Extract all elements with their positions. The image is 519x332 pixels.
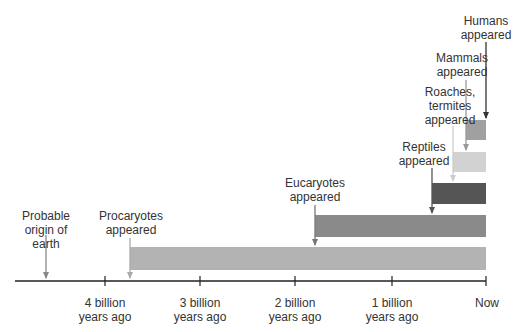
label-line: appeared bbox=[461, 28, 512, 42]
procaryotes-bar bbox=[130, 247, 486, 270]
tick-label-1b: 1 billion years ago bbox=[366, 296, 419, 324]
tick-label-line: 3 billion bbox=[174, 296, 227, 310]
mammals-label: Mammals appeared bbox=[436, 51, 488, 79]
procaryotes-label: Procaryotes appeared bbox=[99, 209, 163, 237]
label-line: appeared bbox=[425, 113, 476, 127]
label-line: earth bbox=[22, 237, 70, 251]
reptiles-label: Reptiles appeared bbox=[399, 140, 450, 168]
label-line: origin of bbox=[22, 223, 70, 237]
label-line: Humans bbox=[461, 14, 512, 28]
tick-label-3b: 3 billion years ago bbox=[174, 296, 227, 324]
tick-label-2b: 2 billion years ago bbox=[269, 296, 322, 324]
reptiles-bar bbox=[432, 183, 486, 204]
label-line: Procaryotes bbox=[99, 209, 163, 223]
tick-label-line: 1 billion bbox=[366, 296, 419, 310]
tick-label-line: 2 billion bbox=[269, 296, 322, 310]
eucaryotes-label: Eucaryotes appeared bbox=[285, 176, 345, 204]
label-line: appeared bbox=[436, 65, 488, 79]
label-line: appeared bbox=[99, 223, 163, 237]
label-line: Probable bbox=[22, 209, 70, 223]
tick-label-line: years ago bbox=[269, 310, 322, 324]
roaches-bar bbox=[453, 152, 486, 172]
tick-label-line: 4 billion bbox=[79, 296, 132, 310]
humans-label: Humans appeared bbox=[461, 14, 512, 42]
roaches-label: Roaches, termites appeared bbox=[425, 85, 476, 127]
label-line: Reptiles bbox=[399, 140, 450, 154]
label-line: Eucaryotes bbox=[285, 176, 345, 190]
label-line: Mammals bbox=[436, 51, 488, 65]
tick-label-line: years ago bbox=[366, 310, 419, 324]
tick-label-line: Now bbox=[475, 296, 499, 310]
label-line: appeared bbox=[399, 154, 450, 168]
eucaryotes-bar bbox=[315, 215, 486, 237]
origin-earth-label: Probable origin of earth bbox=[22, 209, 70, 251]
label-line: Roaches, bbox=[425, 85, 476, 99]
label-line: appeared bbox=[285, 190, 345, 204]
tick-label-line: years ago bbox=[79, 310, 132, 324]
tick-label-now: Now bbox=[475, 296, 499, 310]
tick-label-line: years ago bbox=[174, 310, 227, 324]
label-line: termites bbox=[425, 99, 476, 113]
tick-label-4b: 4 billion years ago bbox=[79, 296, 132, 324]
